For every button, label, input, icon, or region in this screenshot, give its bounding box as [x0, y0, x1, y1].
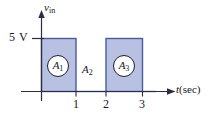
x-axis-title-unit: (sec) [179, 83, 200, 95]
area-label-a2: A2 [82, 63, 93, 75]
area-label-a3-subscript: 3 [125, 64, 129, 73]
area-label-a1-subscript: 1 [59, 64, 63, 73]
area-label-a3: A3 [119, 59, 130, 73]
x-tick-label-2: 2 [99, 98, 113, 110]
area-label-a2-letter: A [82, 63, 89, 75]
area-marker-a3: A3 [113, 55, 135, 77]
x-axis-arrowhead [167, 88, 176, 95]
y-axis-title: vin [44, 2, 55, 15]
pulse-waveform-figure: vin t(sec) 5 V 1 2 3 A1 A2 A3 [0, 0, 217, 122]
x-tick-label-1: 1 [69, 98, 83, 110]
y-tick-label-5v: 5 V [9, 31, 28, 43]
area-label-a1: A1 [53, 59, 64, 73]
x-tick-label-3: 3 [135, 98, 149, 110]
x-axis-title: t(sec) [176, 84, 200, 95]
y-axis-title-subscript: in [49, 6, 55, 15]
area-marker-a1: A1 [47, 55, 69, 77]
area-marker-a2: A2 [82, 59, 93, 77]
area-label-a2-subscript: 2 [89, 68, 93, 77]
